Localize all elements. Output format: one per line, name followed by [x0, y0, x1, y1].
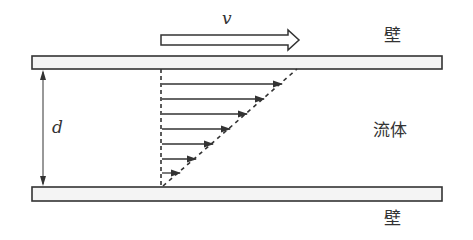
top-wall-label: 壁 — [384, 21, 401, 46]
velocity-profile-envelope-dashed — [163, 69, 297, 186]
fluid-label: 流体 — [373, 116, 407, 141]
gap-dimension-arrow-icon — [40, 70, 46, 186]
velocity-label: v — [222, 8, 232, 28]
velocity-profile-arrows — [162, 84, 282, 173]
wall-velocity-arrow-icon — [161, 30, 299, 50]
bottom-wall-label: 壁 — [384, 204, 401, 229]
gap-label: d — [52, 117, 63, 137]
bottom-wall — [32, 187, 442, 201]
top-wall — [32, 56, 442, 69]
